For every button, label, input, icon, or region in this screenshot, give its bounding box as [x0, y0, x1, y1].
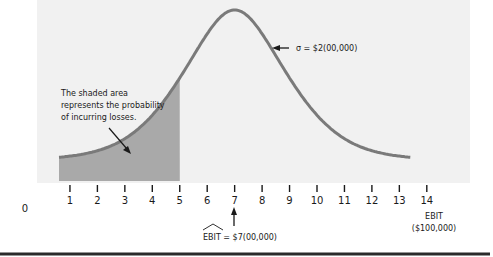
x-tick-label-4: 4	[149, 195, 155, 206]
x-tick-label-5: 5	[177, 195, 183, 206]
x-tick-label-12: 12	[366, 195, 379, 206]
x-tick-label-13: 13	[393, 195, 406, 206]
note-line-3: of incurring losses.	[61, 113, 136, 122]
x-tick-label-3: 3	[122, 195, 128, 206]
x-tick-label-6: 6	[204, 195, 210, 206]
x-tick-label-7: 7	[231, 195, 237, 206]
x-axis-title-line-2: ($100,000)	[412, 224, 456, 233]
x-tick-label-14: 14	[420, 195, 433, 206]
mean-annotation: EBIT = $7(00,000)	[203, 207, 277, 242]
x-axis-ticks	[70, 185, 427, 192]
sigma-label: σ = $2(00,000)	[296, 44, 357, 53]
x-axis-title-line-1: EBIT	[425, 212, 443, 221]
hat-symbol-icon	[203, 224, 223, 230]
note-line-2: represents the probability	[61, 101, 165, 110]
note-line-1: The shaded area	[60, 89, 128, 98]
x-tick-label-9: 9	[286, 195, 292, 206]
x-tick-label-11: 11	[338, 195, 351, 206]
x-tick-label-2: 2	[94, 195, 100, 206]
x-tick-label-1: 1	[67, 195, 73, 206]
x-axis-tick-labels: 1234567891011121314	[67, 195, 433, 206]
x-tick-label-10: 10	[311, 195, 324, 206]
x-axis-origin-label: 0	[22, 203, 28, 214]
x-tick-label-8: 8	[259, 195, 265, 206]
mean-arrow-head-icon	[231, 207, 237, 215]
chart: 1234567891011121314 0 σ = $2(00,000) The…	[0, 0, 493, 257]
mean-label: EBIT = $7(00,000)	[203, 233, 277, 242]
